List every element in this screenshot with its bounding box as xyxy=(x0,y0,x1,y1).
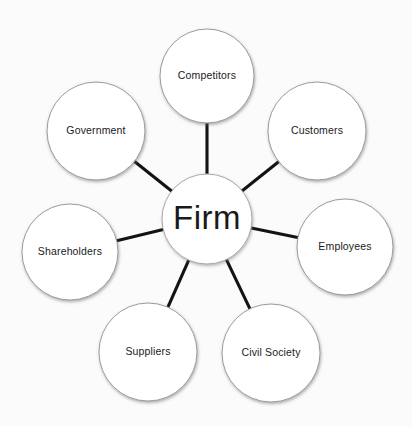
node-label-suppliers: Suppliers xyxy=(125,345,170,357)
node-shareholders[interactable]: Shareholders xyxy=(22,204,118,300)
connector-firm-suppliers xyxy=(167,259,189,308)
node-label-competitors: Competitors xyxy=(178,69,236,81)
node-label-employees: Employees xyxy=(318,240,371,252)
connector-firm-government xyxy=(134,161,173,192)
node-civil-society[interactable]: Civil Society xyxy=(222,304,320,402)
connector-firm-shareholders xyxy=(116,229,165,241)
node-label-government: Government xyxy=(66,124,125,136)
node-suppliers[interactable]: Suppliers xyxy=(99,303,197,401)
node-label-civil-society: Civil Society xyxy=(241,346,301,358)
connector-firm-civil-society xyxy=(226,259,250,310)
node-government[interactable]: Government xyxy=(47,82,145,180)
node-label-customers: Customers xyxy=(291,124,343,136)
node-customers[interactable]: Customers xyxy=(268,82,366,180)
node-label-firm: Firm xyxy=(173,199,241,236)
node-competitors[interactable]: Competitors xyxy=(160,29,254,123)
node-employees[interactable]: Employees xyxy=(297,199,393,295)
stakeholder-diagram: CompetitorsCustomersEmployeesCivil Socie… xyxy=(0,0,412,426)
node-label-shareholders: Shareholders xyxy=(38,245,102,257)
diagram-canvas: CompetitorsCustomersEmployeesCivil Socie… xyxy=(0,0,412,426)
connector-firm-customers xyxy=(241,161,279,192)
connector-firm-employees xyxy=(250,228,299,238)
node-layer: CompetitorsCustomersEmployeesCivil Socie… xyxy=(22,29,393,402)
node-firm[interactable]: Firm xyxy=(162,174,252,264)
